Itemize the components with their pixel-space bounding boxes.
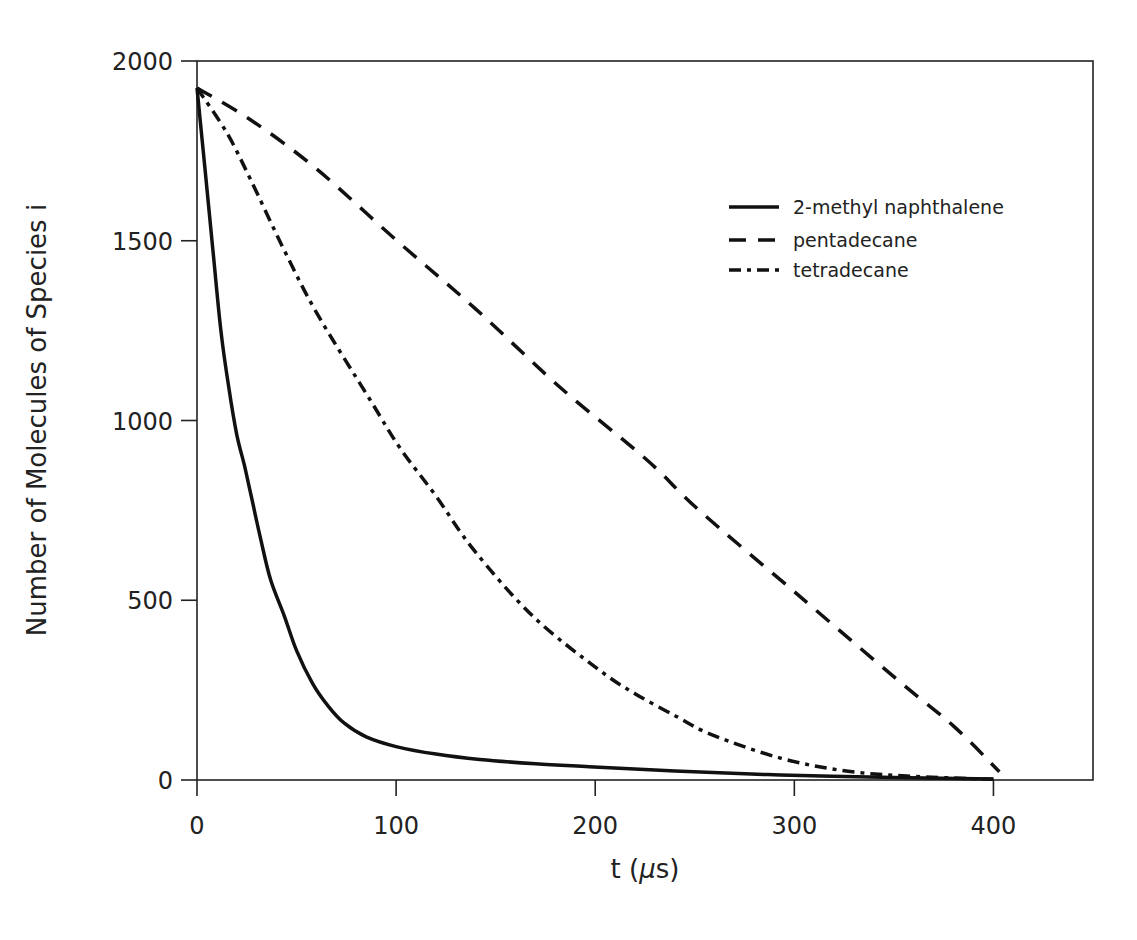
y-tick-label: 0 (158, 767, 173, 795)
legend-item-tetradecane: tetradecane (729, 259, 909, 281)
y-tick-label: 1500 (112, 228, 173, 256)
legend-label: 2-methyl naphthalene (793, 196, 1004, 218)
y-axis-ticks: 0500100015002000 (112, 48, 197, 795)
x-tick-label: 0 (189, 812, 204, 840)
legend-label: pentadecane (793, 229, 917, 251)
y-tick-label: 2000 (112, 48, 173, 76)
x-tick-label: 100 (373, 812, 419, 840)
x-axis-ticks: 0100200300400 (189, 780, 1016, 840)
series-line-pentadecane (197, 88, 999, 772)
plot-area-frame (197, 61, 1093, 780)
x-tick-label: 200 (572, 812, 618, 840)
y-tick-label: 500 (127, 587, 173, 615)
x-axis-title: t (μs) (611, 854, 680, 884)
series-line-2-methyl-naphthalene (197, 88, 993, 779)
y-tick-label: 1000 (112, 408, 173, 436)
legend-item-pentadecane: pentadecane (729, 229, 917, 251)
series-layer (197, 88, 999, 779)
line-chart: 0500100015002000 0100200300400 t (μs) Nu… (0, 0, 1137, 940)
series-line-tetradecane (197, 88, 993, 779)
legend-label: tetradecane (793, 259, 909, 281)
x-tick-label: 400 (971, 812, 1017, 840)
legend: 2-methyl naphthalene pentadecane tetrade… (729, 196, 1004, 281)
x-tick-label: 300 (771, 812, 817, 840)
legend-item-2-methyl-naphthalene: 2-methyl naphthalene (729, 196, 1004, 218)
y-axis-title: Number of Molecules of Species i (22, 204, 52, 636)
